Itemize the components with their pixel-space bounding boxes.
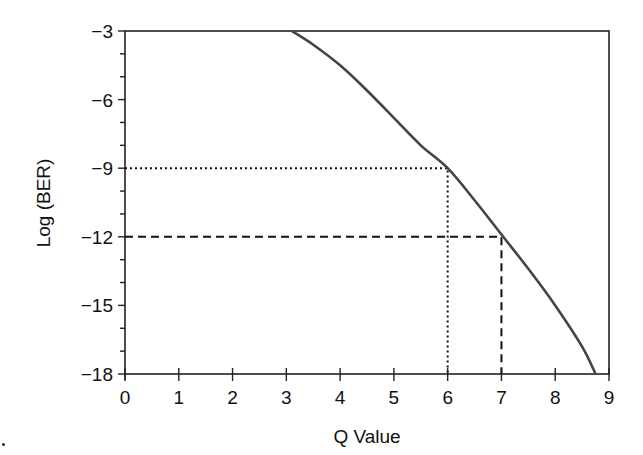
stray-mark bbox=[2, 443, 5, 446]
y-tick-label: −6 bbox=[91, 90, 113, 111]
x-tick-label: 9 bbox=[604, 387, 615, 408]
ber-curve bbox=[292, 31, 596, 374]
y-tick-label: −15 bbox=[81, 295, 113, 316]
y-tick-label: −18 bbox=[81, 364, 113, 385]
x-tick-label: 1 bbox=[173, 387, 184, 408]
y-tick-label: −12 bbox=[81, 227, 113, 248]
data-series bbox=[292, 31, 596, 374]
x-tick-label: 7 bbox=[496, 387, 507, 408]
x-tick-label: 4 bbox=[335, 387, 346, 408]
dotted-reference-line bbox=[125, 168, 448, 374]
y-axis-title: Log (BER) bbox=[33, 159, 54, 248]
plot-frame bbox=[125, 31, 609, 374]
ber-vs-q-chart: −3−6−9−12−15−18 0123456789 Q Value Log (… bbox=[0, 0, 643, 455]
x-tick-label: 5 bbox=[389, 387, 400, 408]
x-axis-title: Q Value bbox=[333, 426, 400, 447]
x-tick-label: 3 bbox=[281, 387, 292, 408]
plot-border bbox=[125, 31, 609, 374]
x-tick-label: 8 bbox=[550, 387, 561, 408]
x-tick-label: 6 bbox=[442, 387, 453, 408]
reference-lines bbox=[125, 168, 501, 374]
x-tick-label: 2 bbox=[227, 387, 238, 408]
y-tick-label: −9 bbox=[91, 158, 113, 179]
dashed-reference-line bbox=[125, 237, 501, 374]
y-axis: −3−6−9−12−15−18 bbox=[81, 21, 125, 385]
y-tick-label: −3 bbox=[91, 21, 113, 42]
x-tick-label: 0 bbox=[120, 387, 131, 408]
